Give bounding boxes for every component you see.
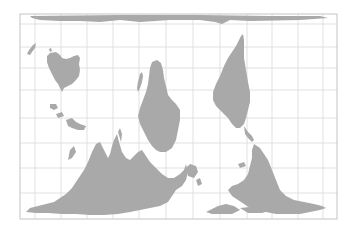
world-map <box>0 0 356 235</box>
map-canvas <box>0 0 356 235</box>
